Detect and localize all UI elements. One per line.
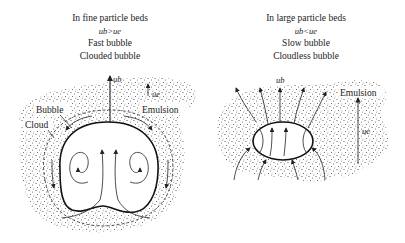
left-ub-label: ub [113, 74, 122, 84]
cloudless-bubble [253, 122, 313, 160]
left-emulsion-label: Emulsion [142, 105, 179, 115]
left-diagram: ub ue Emulsion Bubble Cloud [19, 74, 197, 232]
clouded-bubble [60, 122, 158, 212]
right-ub-label: ub [276, 75, 285, 85]
cloud-label: Cloud [25, 120, 48, 130]
bubble-label: Bubble [36, 105, 63, 115]
left-ue-label: ue [152, 89, 160, 99]
right-diagram: ub Emulsion ue [217, 75, 388, 182]
right-emulsion-label: Emulsion [340, 88, 377, 98]
right-ue-label: ue [362, 126, 370, 136]
diagram-canvas: ub ue Emulsion Bubble Cloud [0, 0, 405, 243]
